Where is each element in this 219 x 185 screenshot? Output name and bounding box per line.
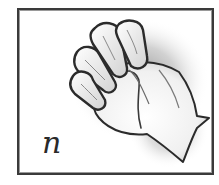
sign-card: n: [0, 0, 219, 185]
card-frame: n: [17, 8, 214, 175]
letter-label: n: [42, 128, 61, 158]
